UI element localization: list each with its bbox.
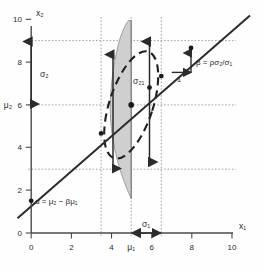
x-tick-label-10: 10 — [228, 243, 237, 252]
y-tick-label-8: 8 — [18, 58, 23, 67]
beta-label: β = ρσ₂/σ₁ — [196, 58, 232, 67]
x-tick-label-4: 4 — [109, 243, 114, 252]
regression-line — [18, 16, 251, 219]
alpha-label: α = μ₂ − βμ₁ — [35, 197, 78, 206]
mu2-axis-label: μ₂ — [4, 100, 12, 110]
y-tick-label-6: 6 — [18, 101, 23, 110]
x-axis-label: x₁ — [239, 221, 246, 231]
x-tick-label-8: 8 — [190, 243, 195, 252]
y-axis-label: x₂ — [36, 8, 44, 18]
y-tick-label-2: 2 — [18, 186, 23, 195]
point-on-line-2 — [147, 85, 152, 90]
bivariate-normal-plot: x₂ x₁ 10 8 6 4 2 0 μ₂ 0 2 4 6 8 10 μ₁ σ₂… — [0, 0, 262, 270]
mu1-axis-label: μ₁ — [127, 242, 135, 252]
x-tick-label-6: 6 — [149, 243, 154, 252]
y-tick-label-10: 10 — [13, 15, 22, 24]
y-tick-label-0: 0 — [18, 229, 23, 238]
point-on-line-3 — [159, 74, 164, 79]
sigma1-label: σ₁ — [142, 219, 150, 229]
point-intercept — [29, 198, 34, 203]
slope-run-label: 1 — [177, 75, 182, 84]
point-center — [128, 102, 134, 108]
x-tick-label-2: 2 — [69, 243, 74, 252]
x-tick-label-0: 0 — [29, 243, 34, 252]
sigma21-label: σ₂₁ — [133, 76, 145, 86]
y-tick-label-4: 4 — [18, 143, 23, 152]
point-slope-corner — [189, 46, 194, 51]
point-on-line-1 — [99, 131, 104, 136]
sigma2-label: σ₂ — [40, 69, 49, 79]
figure-canvas: x₂ x₁ 10 8 6 4 2 0 μ₂ 0 2 4 6 8 10 μ₁ σ₂… — [0, 0, 262, 270]
